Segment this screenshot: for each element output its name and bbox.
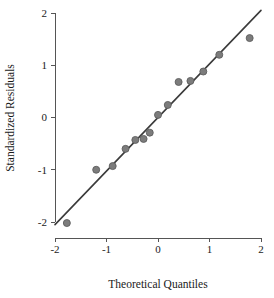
y-tick-label: 0 [42, 111, 48, 123]
x-tick-label: -1 [102, 243, 111, 255]
qq-plot-figure: -2-1012 -2-1012 Theoretical Quantiles St… [0, 0, 274, 298]
data-point [63, 220, 70, 227]
data-point [109, 163, 116, 170]
x-axis: -2-1012 [50, 238, 263, 255]
data-point [216, 51, 223, 58]
qq-plot-canvas: -2-1012 -2-1012 Theoretical Quantiles St… [0, 0, 274, 298]
data-point [155, 111, 162, 118]
y-tick-label: -2 [38, 216, 47, 228]
data-point [122, 145, 129, 152]
x-axis-title: Theoretical Quantiles [108, 278, 208, 290]
x-tick-label: 2 [258, 243, 264, 255]
y-axis: -2-1012 [38, 7, 55, 228]
x-axis-ticks: -2-1012 [50, 238, 263, 255]
data-point [164, 101, 171, 108]
x-tick-label: -2 [50, 243, 59, 255]
data-point [200, 68, 207, 75]
data-point [175, 78, 182, 85]
y-tick-label: 2 [42, 7, 48, 19]
y-axis-title: Standardized Residuals [4, 64, 16, 172]
data-point [132, 136, 139, 143]
y-axis-ticks: -2-1012 [38, 7, 55, 228]
data-point [140, 135, 147, 142]
data-point [146, 129, 153, 136]
data-point [187, 77, 194, 84]
x-tick-label: 0 [155, 243, 161, 255]
x-tick-label: 1 [207, 243, 213, 255]
data-point [93, 166, 100, 173]
data-points [63, 35, 253, 227]
y-tick-label: 1 [42, 59, 48, 71]
y-tick-label: -1 [38, 164, 47, 176]
data-point [246, 35, 253, 42]
